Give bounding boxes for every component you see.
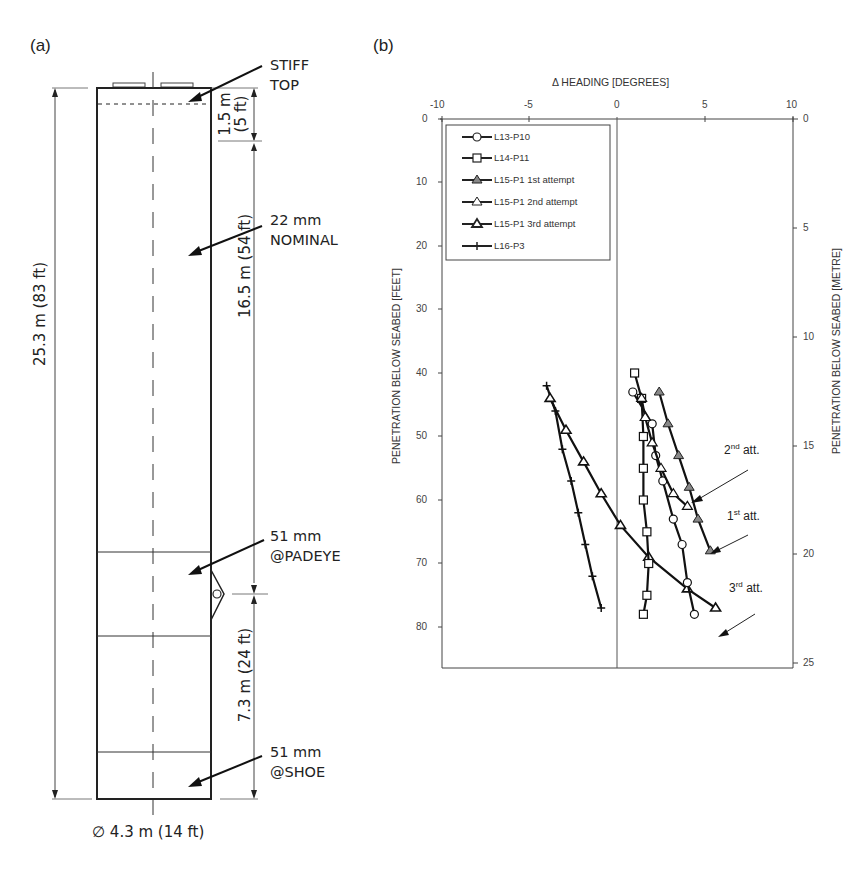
legend-item-l14-p11: L14-P11 [494, 152, 529, 163]
annotation-1st-attempt: 1st att. [727, 508, 760, 523]
annotation-3rd-attempt: 3rd att. [729, 580, 763, 595]
legend-item-l13-p10: L13-P10 [494, 131, 530, 142]
annotation-3rd-sup: rd [736, 580, 743, 589]
annotation-3rd-num: 3 [729, 581, 736, 595]
annotation-3rd-rest: att. [743, 581, 763, 595]
legend-item-l15-p1-2nd: L15-P1 2nd attempt [494, 196, 577, 207]
annotation-1st-num: 1 [727, 509, 734, 523]
legend-item-l15-p1-3rd: L15-P1 3rd attempt [494, 218, 575, 229]
annotation-2nd-sup: nd [731, 442, 740, 451]
annotation-2nd-attempt: 2nd att. [724, 442, 760, 457]
annotation-2nd-rest: att. [740, 443, 760, 457]
annotation-2nd-num: 2 [724, 443, 731, 457]
annotation-1st-rest: att. [740, 509, 760, 523]
heading-chart [0, 0, 864, 870]
legend-item-l15-p1-1st: L15-P1 1st attempt [494, 174, 574, 185]
legend-item-l16-p3: L16-P3 [494, 240, 525, 251]
